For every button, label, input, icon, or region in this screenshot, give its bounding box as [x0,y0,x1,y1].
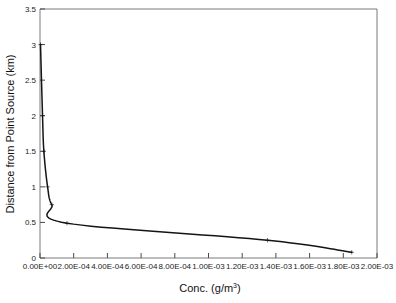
x-tick-label: 1.80E-03 [327,262,360,271]
y-tick-label: 0.5 [25,218,37,227]
x-tick-label: 2.00E-03 [361,262,394,271]
concentration-distance-line-chart: 00.511.522.533.5 0.00E+002.00E-044.00E-0… [0,0,396,303]
chart-figure: 00.511.522.533.5 0.00E+002.00E-044.00E-0… [0,0,396,303]
y-tick-label: 1.5 [25,147,37,156]
y-tick-label: 2.5 [25,76,37,85]
x-tick-label: 1.00E-03 [192,262,225,271]
y-axis-title: Distance from Point Source (km) [4,55,16,214]
y-tick-label: 3 [32,41,37,50]
x-tick-label: 0.00E+00 [23,262,58,271]
x-tick-label: 1.60E-03 [293,262,326,271]
x-tick-label: 1.20E-03 [226,262,259,271]
x-tick-label: 8.00E-04 [159,262,192,271]
x-tick-label: 6.00E-04 [125,262,158,271]
x-tick-label: 2.00E-04 [57,262,90,271]
x-tick-label: 1.40E-03 [260,262,293,271]
x-axis-title: Conc. (g/m3) [179,282,240,294]
x-tick-label: 4.00E-04 [91,262,124,271]
y-tick-label: 1 [32,183,37,192]
y-tick-label: 3.5 [25,5,37,14]
y-tick-label: 2 [32,112,37,121]
